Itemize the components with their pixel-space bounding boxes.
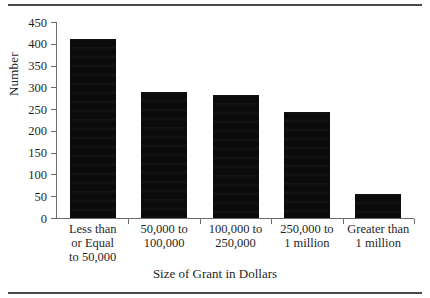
y-axis-title: Number <box>6 52 22 96</box>
y-axis-tick-label: 400 <box>28 38 47 51</box>
y-axis-tick: 400 <box>51 44 56 45</box>
x-axis-category-label-line: 1 million <box>343 236 414 250</box>
y-axis-tick-label: 450 <box>28 16 47 29</box>
x-axis-category-label-line: 50,000 to <box>128 222 199 236</box>
y-axis-tick-label: 250 <box>28 103 47 116</box>
plot-area <box>57 22 414 218</box>
y-axis-tick-label: 100 <box>28 169 47 182</box>
y-axis-tick: 100 <box>51 174 56 175</box>
x-axis-line <box>56 218 414 219</box>
y-axis-tick: 300 <box>51 87 56 88</box>
y-axis-tick: 450 <box>51 22 56 23</box>
y-axis-tick: 200 <box>51 131 56 132</box>
x-axis-title: Size of Grant in Dollars <box>0 266 430 282</box>
y-axis-tick-label: 350 <box>28 60 47 73</box>
x-axis-category-label: 100,000 to250,000 <box>200 222 271 250</box>
x-axis-category-label-line: 100,000 <box>128 236 199 250</box>
y-axis-tick-label: 200 <box>28 125 47 138</box>
y-axis-tick-label: 50 <box>35 190 48 203</box>
y-axis-tick-label: 0 <box>41 212 47 225</box>
bar <box>284 112 330 218</box>
bar <box>141 92 187 218</box>
top-horizontal-rule <box>8 4 422 6</box>
bar <box>355 194 401 218</box>
x-axis-category-label: 250,000 to1 million <box>271 222 342 250</box>
y-axis-tick: 50 <box>51 196 56 197</box>
bar <box>213 95 259 218</box>
x-axis-category-label: Less thanor Equalto 50,000 <box>57 222 128 264</box>
x-axis-category-label: Greater than1 million <box>343 222 414 250</box>
x-axis-category-label-line: 100,000 to <box>200 222 271 236</box>
x-axis-category-label-line: to 50,000 <box>57 250 128 264</box>
y-axis-tick: 350 <box>51 66 56 67</box>
x-axis-category-label-line: or Equal <box>57 236 128 250</box>
bottom-horizontal-rule <box>8 292 422 294</box>
x-axis-category-label-line: 1 million <box>271 236 342 250</box>
x-axis-category-label: 50,000 to100,000 <box>128 222 199 250</box>
x-axis-category-label-line: 250,000 to <box>271 222 342 236</box>
x-axis-category-label-line: 250,000 <box>200 236 271 250</box>
y-axis-tick-label: 150 <box>28 147 47 160</box>
y-axis-tick: 0 <box>51 218 56 219</box>
x-axis-tick <box>414 219 415 224</box>
figure-container: Number 450400350300250200150100500 Less … <box>0 0 430 298</box>
bar <box>70 39 116 218</box>
x-axis-category-label-line: Greater than <box>343 222 414 236</box>
y-axis-tick: 250 <box>51 109 56 110</box>
y-axis-tick-label: 300 <box>28 82 47 95</box>
x-axis-category-label-line: Less than <box>57 222 128 236</box>
y-axis-tick: 150 <box>51 153 56 154</box>
